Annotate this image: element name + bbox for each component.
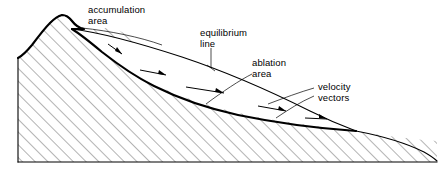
ablation-label-line1: ablation	[252, 57, 286, 68]
accumulation-label-line1: accumulation	[88, 4, 145, 15]
label-equilibrium-line: equilibrium line	[200, 27, 247, 49]
accumulation-label-line2: area	[88, 15, 108, 26]
velocity-label-line1: velocity	[318, 81, 351, 92]
label-velocity-vectors: velocity vectors	[318, 81, 351, 103]
equilibrium-label-line2: line	[200, 38, 215, 49]
glacier-diagram: accumulation area equilibrium line ablat…	[0, 0, 443, 178]
velocity-label-line2: vectors	[318, 92, 349, 103]
label-accumulation-area: accumulation area	[88, 4, 145, 26]
label-ablation-area: ablation area	[252, 57, 286, 79]
ablation-label-line2: area	[252, 68, 272, 79]
equilibrium-label-line1: equilibrium	[200, 27, 247, 38]
